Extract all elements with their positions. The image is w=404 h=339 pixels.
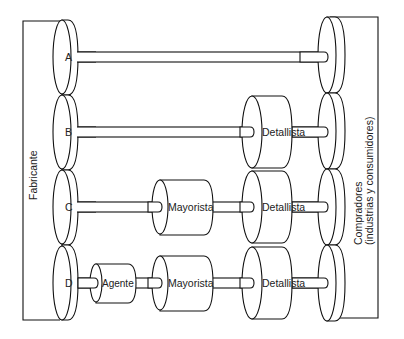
agent-cylinder-d: Agente — [78, 264, 136, 303]
channel-a-label: A — [65, 51, 72, 63]
retailer-cylinder-c: Detallista — [240, 171, 305, 243]
channel-c-label: C — [65, 201, 73, 213]
wholesaler-label-c: Mayorista — [168, 201, 214, 213]
retailer-label-c: Detallista — [262, 201, 305, 213]
retailer-cylinder-d: Detallista — [240, 247, 305, 319]
distribution-channels-diagram: Fabricante Compradores (industrias y con… — [0, 0, 404, 339]
agent-label-d: Agente — [102, 278, 134, 289]
wholesaler-cylinder-c: Mayorista — [148, 180, 214, 235]
channel-b-rod — [74, 127, 250, 137]
channel-b-label: B — [65, 126, 72, 138]
channel-a-rod-tip — [300, 52, 328, 62]
channel-a-rod — [74, 52, 324, 62]
retailer-cylinder-b: Detallista — [240, 96, 305, 168]
wholesaler-label-d: Mayorista — [168, 277, 214, 289]
retailer-label-d: Detallista — [262, 277, 305, 289]
buyers-sublabel: (industrias y consumidores) — [363, 117, 375, 245]
manufacturer-label: Fabricante — [27, 150, 39, 200]
channel-d-label: D — [65, 277, 73, 289]
retailer-label-b: Detallista — [262, 126, 305, 138]
wholesaler-cylinder-d: Mayorista — [148, 256, 214, 311]
